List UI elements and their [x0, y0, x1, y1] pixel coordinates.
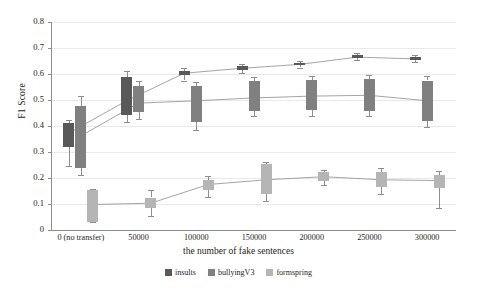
legend-label: insults — [175, 268, 196, 277]
x-tick-label: 300000 — [387, 233, 467, 242]
legend-item-bullyingV3[interactable]: bullyingV3 — [208, 268, 254, 277]
y-tick-mark — [48, 178, 51, 179]
gridline — [52, 230, 456, 231]
y-tick-label: 0.6 — [18, 68, 44, 78]
y-tick-label: 0.1 — [18, 198, 44, 208]
y-tick-mark — [48, 100, 51, 101]
legend-item-formspring[interactable]: formspring — [266, 268, 312, 277]
y-tick-label: 0.3 — [18, 146, 44, 156]
cap-upper — [436, 171, 442, 172]
x-axis-title: the number of fake sentences — [0, 246, 477, 256]
y-tick-label: 0.4 — [18, 120, 44, 130]
cap-upper — [205, 176, 211, 177]
y-tick-mark — [48, 22, 51, 23]
y-tick-mark — [48, 126, 51, 127]
legend-item-insults[interactable]: insults — [165, 268, 196, 277]
whisker-lower — [439, 188, 440, 208]
box-formspring-0 (no transfer) — [87, 190, 98, 222]
cap-lower — [263, 201, 269, 202]
plot-area — [52, 22, 456, 230]
y-tick-mark — [48, 230, 51, 231]
cap-lower — [378, 194, 384, 195]
box-formspring-100000 — [203, 180, 214, 190]
y-tick-mark — [48, 74, 51, 75]
cap-lower — [90, 222, 96, 223]
whisker-upper — [151, 190, 152, 197]
whisker-lower — [381, 187, 382, 194]
legend-label: bullyingV3 — [218, 268, 254, 277]
y-tick-label: 0.7 — [18, 42, 44, 52]
chart-legend: insultsbullyingV3formspring — [0, 268, 477, 277]
cap-lower — [205, 197, 211, 198]
y-tick-label: 0.2 — [18, 172, 44, 182]
box-formspring-250000 — [376, 172, 387, 187]
series-formspring — [52, 22, 456, 230]
y-tick-mark — [48, 204, 51, 205]
cap-upper — [321, 170, 327, 171]
cap-upper — [263, 162, 269, 163]
cap-lower — [148, 216, 154, 217]
cap-upper — [378, 168, 384, 169]
whisker-lower — [208, 190, 209, 197]
y-tick-mark — [48, 48, 51, 49]
legend-swatch-icon — [266, 269, 273, 276]
y-tick-mark — [48, 152, 51, 153]
box-formspring-300000 — [434, 175, 445, 188]
legend-swatch-icon — [165, 269, 172, 276]
whisker-lower — [151, 208, 152, 215]
legend-label: formspring — [276, 268, 312, 277]
legend-swatch-icon — [208, 269, 215, 276]
cap-lower — [436, 208, 442, 209]
box-formspring-150000 — [261, 164, 272, 193]
y-tick-label: 0.8 — [18, 16, 44, 26]
y-tick-label: 0.5 — [18, 94, 44, 104]
box-formspring-50000 — [145, 198, 156, 209]
chart-figure: F1 Score 00.10.20.30.40.50.60.70.8 0 (no… — [0, 0, 477, 292]
box-formspring-200000 — [318, 172, 329, 180]
cap-upper — [148, 190, 154, 191]
cap-lower — [321, 185, 327, 186]
whisker-lower — [266, 194, 267, 201]
